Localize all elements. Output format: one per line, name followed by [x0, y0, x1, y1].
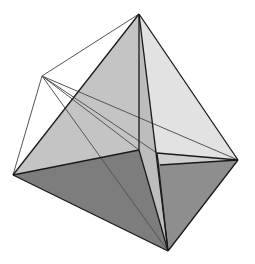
diagram-canvas: Stellated tetrahedral solid (wireframe w… — [0, 0, 255, 264]
face-lower-right — [157, 153, 238, 251]
polyhedron-figure — [0, 0, 255, 264]
